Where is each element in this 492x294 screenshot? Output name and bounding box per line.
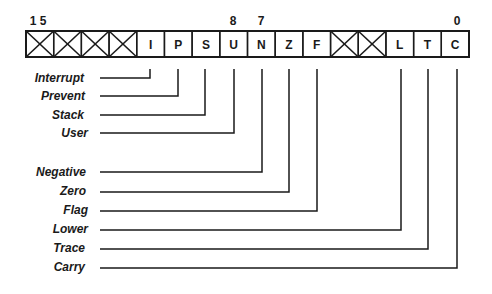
bit-number-15: 1 5 [30,14,47,28]
leader-line-interrupt [100,69,150,78]
bit-number-7: 7 [258,14,265,28]
flag-label-zero: Zero [0,184,86,198]
register-cell-letter: C [451,38,460,52]
flag-label-carry: Carry [0,260,85,274]
leader-line-lower [100,69,401,230]
flag-label-prevent: Prevent [0,89,85,103]
flag-label-user: User [0,126,88,140]
leader-line-negative [100,69,262,172]
register-cell-letter: N [257,38,266,52]
leader-line-flag [100,69,317,211]
register-cell-letter: P [174,38,182,52]
register-cell-letter: U [229,38,238,52]
register-cell-letter: F [313,38,320,52]
register-cell-letter: S [202,38,210,52]
flag-label-stack: Stack [0,108,84,122]
register-cell-letter: L [396,38,403,52]
register-cell-letter: T [424,38,432,52]
flag-label-lower: Lower [0,222,88,236]
flag-label-flag: Flag [0,203,88,217]
leader-line-prevent [100,69,178,96]
leader-line-stack [100,69,205,115]
leader-line-zero [100,69,289,192]
leader-line-carry [100,69,457,268]
flag-label-negative: Negative [0,165,86,179]
bit-number-8: 8 [230,14,237,28]
flag-label-trace: Trace [0,241,85,255]
bit-number-0: 0 [454,14,461,28]
register-cell-letter: Z [285,38,292,52]
register-cell-letter: I [149,38,152,52]
flag-label-interrupt: Interrupt [0,71,84,85]
